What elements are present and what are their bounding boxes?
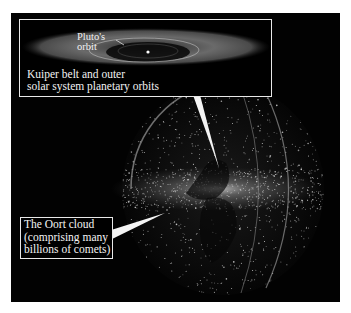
- pluto-label-line2: orbit: [77, 42, 105, 52]
- kuiper-belt-label: Kuiper belt and outer solar system plane…: [27, 68, 159, 92]
- oort-label-line1: The Oort cloud: [24, 218, 112, 231]
- pluto-orbit-label: Pluto's orbit: [77, 32, 105, 52]
- kuiper-label-line2: solar system planetary orbits: [27, 80, 159, 92]
- oort-sphere: [111, 83, 324, 296]
- kuiper-belt-inset: Pluto's orbit Kuiper belt and outer sola…: [19, 19, 272, 97]
- oort-label-line2: (comprising many: [24, 231, 112, 244]
- sun-icon: [146, 50, 149, 53]
- oort-label-line3: billions of comets): [24, 243, 112, 256]
- kuiper-label-line1: Kuiper belt and outer: [27, 68, 159, 80]
- oort-cloud-label: The Oort cloud (comprising many billions…: [20, 217, 113, 259]
- illustration-panel: Pluto's orbit Kuiper belt and outer sola…: [11, 13, 340, 302]
